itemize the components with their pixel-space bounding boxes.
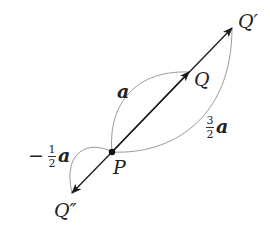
fraction-three-halves: 3 2: [206, 115, 214, 140]
arrow-P-to-Q-double-prime: [72, 152, 112, 193]
label-P: P: [113, 158, 126, 177]
denominator: 2: [48, 158, 55, 169]
label-three-halves-a: 3 2 a: [204, 115, 228, 140]
label-Q: Q: [194, 70, 210, 89]
label-Q-double-prime: Q″: [54, 201, 77, 220]
vector-scaling-diagram: Q′ Q P Q″ a 3 2 a − 1 2 a: [0, 0, 270, 240]
vector-a: a: [216, 115, 228, 137]
arc-neg-half-a: [70, 147, 112, 193]
label-vector-a: a: [117, 82, 129, 101]
label-neg-half-a: − 1 2 a: [28, 144, 70, 169]
label-Q-prime: Q′: [238, 12, 258, 31]
numerator: 3: [207, 115, 214, 126]
denominator: 2: [207, 129, 214, 140]
diagram-graphics: [0, 0, 270, 240]
vector-a: a: [58, 144, 70, 166]
point-P-dot: [109, 149, 115, 155]
fraction-one-half: 1 2: [48, 144, 56, 169]
numerator: 1: [48, 144, 55, 155]
minus-sign: −: [28, 144, 44, 166]
